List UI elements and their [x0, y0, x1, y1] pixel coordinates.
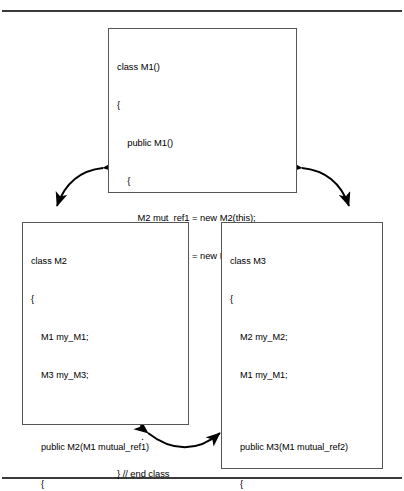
- code-line: public M3(M1 mutual_ref2): [230, 441, 382, 454]
- code-block-m1: class M1() { public M1() { M2 mut_ref1 =…: [109, 29, 296, 192]
- code-line: M3 my_M3;: [31, 369, 188, 382]
- top-rule: [2, 10, 402, 12]
- code-line: M2 my_M2;: [230, 331, 382, 344]
- code-line: M1 my_M1;: [230, 369, 382, 382]
- code-line: class M2: [31, 255, 188, 268]
- class-box-m3: class M3 { M2 my_M2; M1 my_M1; public M3…: [221, 222, 383, 469]
- arrow-m1-m2: [57, 168, 103, 206]
- arrow-m1-m3: [302, 168, 349, 206]
- code-line-blank: [31, 406, 188, 415]
- code-line: {: [31, 293, 188, 306]
- code-line: {: [31, 478, 188, 491]
- class-relationship-diagram: class M1() { public M1() { M2 mut_ref1 =…: [0, 0, 404, 491]
- code-line: M1 my_M1;: [31, 331, 188, 344]
- code-line: public M2(M1 mutual_ref1): [31, 441, 188, 454]
- code-line: class M1(): [117, 61, 296, 74]
- code-line: {: [230, 293, 382, 306]
- code-line: public M1(): [117, 137, 296, 150]
- code-line: {: [230, 478, 382, 491]
- code-block-m3: class M3 { M2 my_M2; M1 my_M1; public M3…: [222, 223, 382, 468]
- class-box-m1: class M1() { public M1() { M2 mut_ref1 =…: [108, 28, 297, 193]
- class-box-m2: class M2 { M1 my_M1; M3 my_M3; public M2…: [22, 222, 189, 425]
- code-line: {: [117, 99, 296, 112]
- code-line: class M3: [230, 255, 382, 268]
- code-line: {: [117, 175, 296, 188]
- code-block-m2: class M2 { M1 my_M1; M3 my_M3; public M2…: [23, 223, 188, 424]
- code-line-blank: [230, 406, 382, 415]
